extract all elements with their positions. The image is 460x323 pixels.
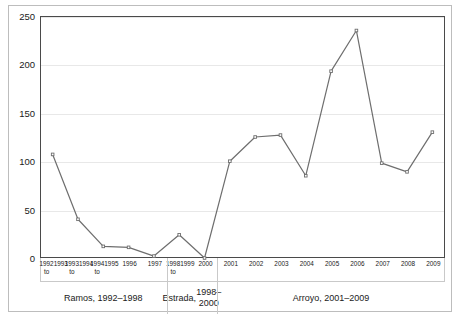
group-label: Estrada,1998–2000 xyxy=(167,282,218,314)
data-point-marker xyxy=(229,160,232,163)
data-point-marker xyxy=(380,162,383,165)
y-tick-label-50: 50 xyxy=(24,204,35,215)
x-tick-label: 1997 xyxy=(142,258,167,281)
data-point-marker xyxy=(355,29,358,32)
x-tick-label: 2002 xyxy=(244,258,269,281)
data-point-marker xyxy=(304,174,307,177)
y-tick-label-100: 100 xyxy=(19,156,35,167)
x-tick-label: 2005 xyxy=(319,258,344,281)
x-axis-group-labels: Ramos, 1992–1998Estrada,1998–2000Arroyo,… xyxy=(40,282,445,314)
y-tick-label-0: 0 xyxy=(30,253,35,264)
data-point-marker xyxy=(330,70,333,73)
x-tick-label: 2001 xyxy=(218,258,243,281)
x-tick-label: 1993 to1994 xyxy=(66,258,91,281)
group-label: Ramos, 1992–1998 xyxy=(40,282,167,314)
data-point-marker xyxy=(254,136,257,139)
group-separator xyxy=(167,258,168,314)
x-tick-label: 1998 to1999 xyxy=(168,258,193,281)
x-tick-label: 2009 xyxy=(421,258,446,281)
y-tick-label-150: 150 xyxy=(19,107,35,118)
x-tick-label: 2003 xyxy=(269,258,294,281)
data-point-marker xyxy=(178,233,181,236)
data-point-marker xyxy=(153,255,156,258)
data-point-marker xyxy=(406,171,409,174)
data-point-marker xyxy=(51,153,54,156)
y-tick-label-250: 250 xyxy=(19,11,35,22)
x-tick-label: 2007 xyxy=(370,258,395,281)
x-tick-label: 2008 xyxy=(395,258,420,281)
group-separator xyxy=(217,258,218,314)
group-label: Arroyo, 2001–2009 xyxy=(217,282,445,314)
data-point-marker xyxy=(127,246,130,249)
x-tick-label: 1996 xyxy=(117,258,142,281)
x-tick-label: 1994 to1995 xyxy=(92,258,117,281)
data-point-marker xyxy=(77,218,80,221)
x-tick-label: 1992 to1993 xyxy=(41,258,66,281)
x-axis-category-labels: 1992 to19931993 to19941994 to19951996199… xyxy=(40,258,445,282)
data-point-marker xyxy=(279,134,282,137)
x-tick-label: 2000 xyxy=(193,258,218,281)
data-point-marker xyxy=(102,245,105,248)
data-series-line xyxy=(40,16,445,258)
y-tick-label-200: 200 xyxy=(19,59,35,70)
x-tick-label: 2006 xyxy=(345,258,370,281)
x-tick-label: 2004 xyxy=(294,258,319,281)
y-axis-tick-labels: 050100150200250 xyxy=(0,16,40,258)
chart-figure: 050100150200250 1992 to19931993 to199419… xyxy=(0,0,460,323)
series-polyline xyxy=(53,31,433,258)
data-point-marker xyxy=(431,131,434,134)
